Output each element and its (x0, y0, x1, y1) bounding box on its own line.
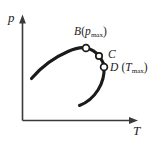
point-c-label: C (108, 49, 116, 61)
data-point-marker-d (101, 64, 108, 71)
pressure-axis-arrow-icon (19, 15, 26, 24)
point-d-paren-close: ) (144, 61, 148, 73)
data-point-marker-c (96, 53, 102, 59)
pressure-temperature-diagram: p T B(pmax) C D (Tmax) (0, 0, 163, 144)
point-c-name: C (108, 48, 116, 60)
phase-boundary-curve (32, 48, 105, 106)
temperature-axis-label-text: T (133, 123, 140, 138)
temperature-axis-label: T (133, 124, 140, 137)
point-d-subscript: max (132, 67, 144, 75)
point-b-paren-close: ) (103, 25, 107, 37)
point-d-label: D (Tmax) (110, 62, 148, 74)
data-point-marker-b (83, 45, 90, 52)
pressure-axis-label-text: p (8, 10, 15, 25)
point-b-label: B(pmax) (74, 26, 107, 38)
point-d-variable: T (125, 61, 132, 73)
pressure-axis-label: p (8, 11, 15, 24)
point-b-subscript: max (91, 31, 103, 39)
